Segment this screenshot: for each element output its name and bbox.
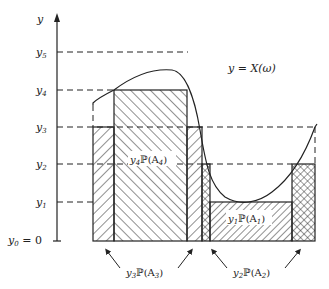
label-y3-p-a3: y3ℙ(A3) xyxy=(125,267,163,280)
level-label-y0: y0 = 0 xyxy=(7,234,42,248)
level-label-y4: y4 xyxy=(35,84,47,98)
arrow-a2-right-icon xyxy=(285,251,299,268)
pointer-arrows xyxy=(107,251,299,268)
axis-label-y: y xyxy=(36,13,44,26)
arrow-a3-right-icon xyxy=(178,251,191,268)
level-labels: y5 y4 y3 y2 y1 y0 = 0 xyxy=(7,46,47,248)
curve-label: y = X(ω) xyxy=(227,62,276,75)
level-label-y2: y2 xyxy=(35,158,47,172)
level-label-y3: y3 xyxy=(35,121,47,135)
axis-arrow-icon xyxy=(54,13,60,22)
level-label-y1: y1 xyxy=(35,196,47,210)
arrow-a3-left-icon xyxy=(107,251,120,268)
rect-a2-left xyxy=(202,164,210,241)
approximation-rectangles xyxy=(93,90,315,241)
rect-a3-right xyxy=(187,127,202,241)
arrow-a2-left-icon xyxy=(213,251,227,268)
label-y2-p-a2: y2ℙ(A2) xyxy=(232,267,270,280)
lebesgue-integral-diagram: y y5 y4 y3 y2 y1 y0 = 0 y4ℙ(A4) y1ℙ(A1) xyxy=(0,0,329,289)
rect-a2-right xyxy=(292,164,315,241)
level-label-y5: y5 xyxy=(35,46,47,60)
rect-a3-left xyxy=(93,127,114,241)
